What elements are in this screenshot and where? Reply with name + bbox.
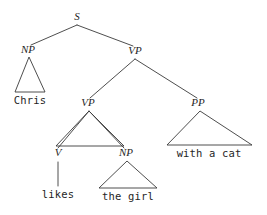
node-label-pp: PP — [190, 96, 205, 108]
syntax-tree-diagram: S NP VP VP PP V NP Chris with a cat like… — [0, 0, 267, 215]
node-label-np-object: NP — [118, 146, 133, 158]
leaf-label-likes: likes — [42, 188, 74, 200]
node-label-s: S — [74, 10, 80, 22]
leaf-label-with-a-cat: with a cat — [177, 147, 242, 159]
node-label-vp-top: VP — [128, 44, 142, 56]
node-label-vp-inner: VP — [81, 96, 95, 108]
node-label-np-subject: NP — [20, 43, 35, 55]
leaf-label-the-girl: the girl — [102, 190, 154, 202]
diagram-background — [0, 0, 267, 215]
leaf-label-chris: Chris — [14, 94, 46, 106]
